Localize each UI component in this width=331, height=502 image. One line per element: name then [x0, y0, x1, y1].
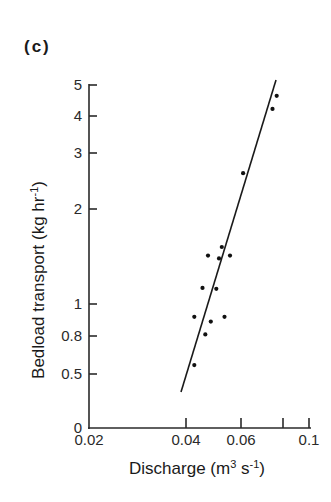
y-tick-label: 2	[74, 200, 82, 217]
data-points	[192, 94, 279, 368]
y-axis-title: Bedload transport (kg hr-1)	[28, 181, 48, 379]
data-point	[192, 315, 196, 319]
data-point	[209, 320, 213, 324]
y-tick-label: 4	[74, 107, 82, 124]
x-tick-label: 0.1	[299, 431, 320, 448]
y-tick-label: 0.8	[61, 327, 82, 344]
data-point	[200, 286, 204, 290]
y-tick-label: 0.5	[61, 365, 82, 382]
y-ticks: 00.50.812345	[61, 76, 97, 436]
data-point	[214, 287, 218, 291]
y-tick-label: 1	[74, 295, 82, 312]
x-tick-label: 0.02	[74, 431, 103, 448]
x-tick-label: 0.06	[226, 431, 255, 448]
data-point	[206, 254, 210, 258]
data-point	[217, 256, 221, 260]
x-ticks: 0.020.040.060.1	[74, 418, 319, 448]
x-axis-title: Discharge (m3 s-1)	[129, 458, 265, 478]
axes	[88, 84, 311, 429]
y-tick-label: 3	[74, 144, 82, 161]
data-point	[220, 245, 224, 249]
data-point	[241, 171, 245, 175]
regression-line	[181, 80, 276, 392]
data-point	[192, 363, 196, 367]
x-tick-label: 0.04	[171, 431, 200, 448]
data-point	[203, 332, 207, 336]
y-tick-label: 5	[74, 76, 82, 93]
data-point	[275, 94, 279, 98]
data-point	[270, 107, 274, 111]
data-point	[222, 315, 226, 319]
scatter-chart: 00.50.812345 0.020.040.060.1 Bedload tra…	[0, 0, 331, 502]
data-point	[228, 254, 232, 258]
